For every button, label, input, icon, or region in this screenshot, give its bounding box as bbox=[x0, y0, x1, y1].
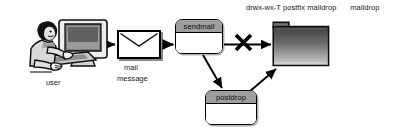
postdrop-node: postdrop bbox=[205, 90, 257, 125]
sendmail-node: sendmail bbox=[175, 19, 223, 54]
envelope-icon bbox=[117, 30, 161, 59]
postdrop-titlebar: postdrop bbox=[206, 91, 256, 104]
edge-postdrop-to-maildrop bbox=[249, 69, 276, 92]
maildrop-permissions-caption: drwx-wx-T postfix maildropmaildrop bbox=[246, 4, 380, 12]
folder-icon bbox=[272, 21, 330, 67]
maildrop-dirname-text: maildrop bbox=[350, 3, 379, 12]
sendmail-titlebar: sendmail bbox=[176, 20, 222, 33]
maildrop-permissions-text: drwx-wx-T postfix maildrop bbox=[246, 3, 336, 12]
postdrop-body bbox=[206, 104, 256, 124]
diagram-canvas: drwx-wx-T postfix maildropmaildrop bbox=[0, 0, 404, 136]
folder-body bbox=[273, 27, 328, 66]
sendmail-body bbox=[176, 33, 222, 53]
x-cross-blocked-marker bbox=[234, 33, 253, 52]
user-at-computer-icon bbox=[18, 16, 114, 78]
mail-message-label-line2: message bbox=[117, 75, 148, 83]
edge-sendmail-to-postdrop bbox=[203, 55, 222, 88]
sendmail-label: sendmail bbox=[184, 22, 215, 31]
postdrop-label: postdrop bbox=[216, 93, 246, 102]
mail-message-label-line1: mail bbox=[124, 64, 138, 72]
envelope-flap bbox=[119, 32, 159, 57]
user-label: user bbox=[46, 79, 60, 87]
